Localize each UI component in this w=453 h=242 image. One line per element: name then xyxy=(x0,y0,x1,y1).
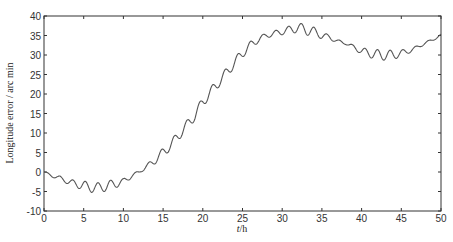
x-axis-label: t/h xyxy=(237,223,248,234)
y-tick-label: -5 xyxy=(32,187,41,198)
x-tick-label: 10 xyxy=(118,213,130,224)
x-tick-label: 0 xyxy=(41,213,47,224)
plot-frame xyxy=(44,16,441,211)
x-tick-label: 5 xyxy=(81,213,87,224)
y-tick-label: 5 xyxy=(35,148,41,159)
y-tick-label: 30 xyxy=(30,50,42,61)
x-tick-label: 40 xyxy=(356,213,368,224)
longitude-error-line xyxy=(44,23,441,192)
x-tick-label: 20 xyxy=(197,213,209,224)
x-axis-ticks: 05101520253035404550 xyxy=(41,16,447,224)
x-tick-label: 50 xyxy=(435,213,447,224)
y-tick-label: 40 xyxy=(30,11,42,22)
y-tick-label: 15 xyxy=(30,109,42,120)
line-chart: 05101520253035404550 -10-505101520253035… xyxy=(0,0,453,242)
y-tick-label: 20 xyxy=(30,89,42,100)
y-tick-label: 25 xyxy=(30,70,42,81)
x-tick-label: 15 xyxy=(158,213,170,224)
y-tick-label: -10 xyxy=(27,206,42,217)
x-tick-label: 35 xyxy=(316,213,328,224)
y-tick-label: 0 xyxy=(35,167,41,178)
y-tick-label: 35 xyxy=(30,31,42,42)
x-tick-label: 30 xyxy=(277,213,289,224)
x-tick-label: 45 xyxy=(396,213,408,224)
y-tick-label: 10 xyxy=(30,128,42,139)
y-axis-label: Longitude error / arc min xyxy=(4,62,15,163)
